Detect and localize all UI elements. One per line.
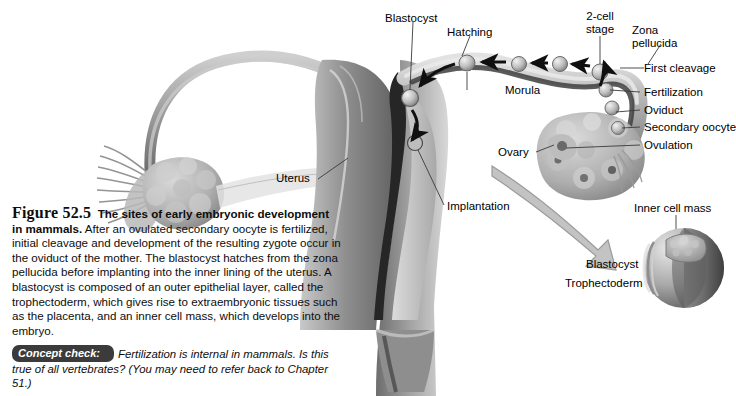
label-ovary: Ovary [498,146,529,159]
label-secondary-oocyte: Secondary oocyte [644,121,736,134]
label-fertilization: Fertilization [644,86,703,99]
blastocyst-inset [644,228,724,308]
label-uterus: Uterus [276,172,310,185]
label-oviduct: Oviduct [644,104,683,117]
label-blastocyst: Blastocyst [385,12,437,25]
label-hatching: Hatching [447,26,492,39]
concept-check-tag: Concept check: [12,345,114,361]
label-inset-blastocyst: Blastocyst [586,258,638,271]
label-first-cleavage: First cleavage [644,62,716,75]
label-zona-pellucida: Zona pellucida [632,24,677,49]
concept-check: Concept check:Fertilization is internal … [12,345,342,390]
label-morula: Morula [505,84,540,97]
figure-number: Figure 52.5 [12,204,91,221]
caption-text: Figure 52.5 The sites of early embryonic… [12,206,342,338]
label-ovulation: Ovulation [644,139,693,152]
figure-caption: Figure 52.5 The sites of early embryonic… [12,206,342,391]
label-implantation: Implantation [447,200,510,213]
label-inner-cell-mass: Inner cell mass [634,202,711,215]
label-trophectoderm: Trophectoderm [565,277,643,290]
figure-body: After an ovulated secondary oocyte is fe… [12,222,341,337]
label-2-cell-stage: 2-cell stage [577,10,623,35]
